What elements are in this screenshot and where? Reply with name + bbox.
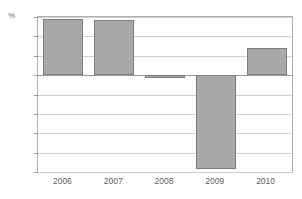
x-axis-label-2009: 2009 xyxy=(189,176,240,186)
gridline-neg5 xyxy=(38,172,292,173)
x-axis-label-2010: 2010 xyxy=(240,176,291,186)
y-tick-mark xyxy=(34,153,38,154)
gridline-neg2 xyxy=(38,114,292,115)
y-tick-mark xyxy=(34,95,38,96)
y-tick-mark xyxy=(34,172,38,173)
gridline-neg4 xyxy=(38,153,292,154)
bar-2008 xyxy=(145,75,185,78)
y-tick-mark xyxy=(34,17,38,18)
gridline-neg1 xyxy=(38,95,292,96)
x-axis-labels-group: 20062007200820092010 xyxy=(37,176,293,188)
gridline-neg3 xyxy=(38,133,292,134)
clipped-chart-title: ····· ·· ·· ··· ·· ··· xyxy=(8,0,208,3)
y-tick-mark xyxy=(34,114,38,115)
bar-2010 xyxy=(247,48,287,75)
bar-2009 xyxy=(196,75,236,169)
x-axis-label-2008: 2008 xyxy=(139,176,190,186)
x-axis-label-2007: 2007 xyxy=(88,176,139,186)
y-tick-mark xyxy=(34,133,38,134)
bar-2006 xyxy=(43,19,83,75)
y-axis-unit-label: % xyxy=(8,11,15,20)
x-axis-label-2006: 2006 xyxy=(37,176,88,186)
gridline-3 xyxy=(38,17,292,18)
chart-plot-area: 3210-1-2-3-4-5 xyxy=(37,16,293,173)
y-tick-mark xyxy=(34,36,38,37)
y-tick-mark xyxy=(34,56,38,57)
bar-2007 xyxy=(94,20,134,75)
y-tick-mark xyxy=(34,75,38,76)
